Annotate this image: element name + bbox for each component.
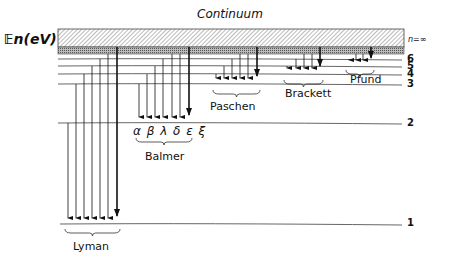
- series-label-brackett: Brackett: [285, 87, 331, 100]
- energy-level-2: [58, 123, 402, 124]
- hydrogen-energy-level-diagram: [0, 0, 454, 266]
- energy-axis-label: 𝔼n(eV): [4, 31, 57, 47]
- series-label-paschen: Paschen: [210, 100, 255, 113]
- level-label-3: 3: [407, 78, 414, 89]
- balmer-line-names: α β λ δ ε ξ: [133, 124, 206, 138]
- balmer-brace: [136, 138, 192, 145]
- series-label-lyman: Lyman: [73, 240, 109, 253]
- series-label-balmer: Balmer: [145, 150, 184, 163]
- series-label-pfund: Pfund: [350, 73, 381, 86]
- energy-level-1: [60, 224, 402, 225]
- n-infinity-label: n=∞: [408, 35, 426, 44]
- energy-level-5: [58, 66, 402, 67]
- paschen-brace: [213, 90, 260, 97]
- continuum-title: Continuum: [197, 7, 263, 21]
- level-label-2: 2: [407, 117, 414, 128]
- level-label-1: 1: [407, 217, 414, 228]
- energy-level-6: [58, 59, 402, 60]
- lyman-brace: [65, 229, 120, 236]
- brackett-brace: [284, 80, 323, 87]
- transition-arrows: [68, 47, 371, 218]
- continuum-band: [58, 29, 404, 54]
